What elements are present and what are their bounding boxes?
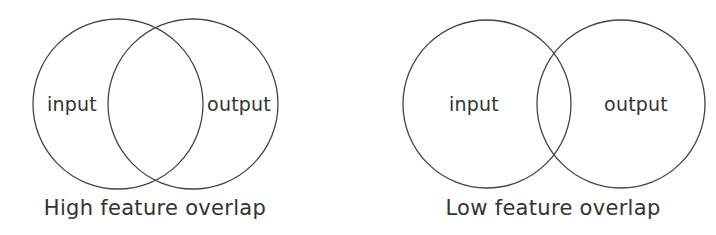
low-overlap-output-label: output	[604, 93, 668, 115]
high-overlap-caption: High feature overlap	[44, 196, 266, 220]
low-overlap-input-label: input	[449, 93, 499, 115]
low-overlap-caption: Low feature overlap	[445, 196, 660, 220]
high-overlap-input-label: input	[47, 93, 97, 115]
high-overlap-output-label: output	[207, 93, 271, 115]
